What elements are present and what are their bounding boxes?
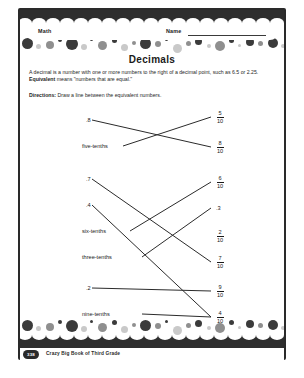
top-dot-band xyxy=(20,38,284,55)
worksheet-page: Math Name Decimals A decimal is a number… xyxy=(0,0,304,378)
fraction-numerator: 6 xyxy=(213,176,227,182)
bottom-decorative-band xyxy=(20,335,284,348)
decorative-dot xyxy=(90,320,93,323)
fraction-numerator: 4 xyxy=(213,311,227,317)
band-notch xyxy=(20,335,32,340)
match-line[interactable] xyxy=(142,208,211,257)
fraction-denominator: 10 xyxy=(213,184,227,190)
directions-label: Directions: xyxy=(29,92,56,98)
fraction-denominator: 10 xyxy=(213,149,227,155)
band-notch xyxy=(256,335,270,340)
decorative-dot xyxy=(81,326,87,332)
fraction-numerator: 7 xyxy=(213,256,227,262)
right-fraction[interactable]: 810 xyxy=(213,141,227,155)
right-fraction[interactable]: 910 xyxy=(213,285,227,299)
decorative-dot xyxy=(46,41,54,49)
decorative-dot xyxy=(46,323,54,331)
left-term[interactable]: .8 xyxy=(86,117,91,123)
decorative-dot xyxy=(173,326,182,335)
decorative-dot xyxy=(246,320,254,328)
right-fraction[interactable]: 510 xyxy=(213,111,227,125)
match-line[interactable] xyxy=(92,205,211,317)
decorative-dot xyxy=(132,41,136,45)
band-notch xyxy=(60,335,74,340)
band-notch xyxy=(130,335,144,340)
band-notch xyxy=(200,335,214,340)
directions-text: Directions: Draw a line between the equi… xyxy=(29,92,275,99)
match-line[interactable] xyxy=(92,120,211,147)
decorative-dot xyxy=(195,320,202,327)
decorative-dot xyxy=(81,44,87,50)
subject-label: Math xyxy=(38,28,51,34)
band-notch xyxy=(74,18,88,23)
book-title-footer: Crazy Big Book of Third Grade xyxy=(46,351,120,356)
match-line[interactable] xyxy=(130,182,211,231)
band-notch xyxy=(46,335,60,340)
match-line[interactable] xyxy=(92,288,211,291)
decorative-dot xyxy=(281,326,284,330)
decorative-dot xyxy=(215,323,225,333)
decorative-dot xyxy=(36,44,41,49)
right-fraction[interactable]: 610 xyxy=(213,176,227,190)
decorative-dot xyxy=(186,41,191,46)
right-term[interactable]: .3 xyxy=(216,205,221,211)
band-notch xyxy=(270,335,284,340)
band-notch xyxy=(158,18,172,23)
decorative-dot xyxy=(186,323,191,328)
matching-lines xyxy=(20,104,284,320)
decorative-dot xyxy=(238,44,241,47)
band-notch xyxy=(228,18,242,23)
name-write-line[interactable] xyxy=(188,35,266,36)
band-notch xyxy=(60,18,74,23)
band-notch xyxy=(186,18,200,23)
match-line[interactable] xyxy=(142,314,211,317)
decorative-dot xyxy=(121,326,128,333)
decorative-dot xyxy=(155,41,161,47)
band-notch xyxy=(172,18,186,23)
band-notch xyxy=(102,18,116,23)
fraction-denominator: 10 xyxy=(213,119,227,125)
band-notch xyxy=(102,335,116,340)
name-label: Name xyxy=(166,28,181,34)
left-term[interactable]: nine-tenths xyxy=(82,311,110,317)
definition-part-1: A decimal is a number with one or more n… xyxy=(29,69,258,75)
band-notch xyxy=(116,335,130,340)
decorative-dot xyxy=(140,320,151,331)
decorative-dot xyxy=(121,44,128,51)
band-notch xyxy=(116,18,130,23)
band-notch xyxy=(228,335,242,340)
left-term[interactable]: five-tenths xyxy=(82,143,108,149)
band-notch xyxy=(172,335,186,340)
decorative-dot xyxy=(258,41,263,46)
band-notch xyxy=(32,335,46,340)
decorative-dot xyxy=(66,320,78,332)
match-line[interactable] xyxy=(123,117,211,146)
left-term[interactable]: .2 xyxy=(86,285,91,291)
band-notch xyxy=(270,18,284,23)
decorative-dot xyxy=(238,326,241,329)
fraction-numerator: 5 xyxy=(213,111,227,117)
left-term[interactable]: .7 xyxy=(86,176,91,182)
band-notch xyxy=(214,335,228,340)
left-term[interactable]: six-tenths xyxy=(82,228,106,234)
decorative-dot xyxy=(229,320,234,325)
band-notch xyxy=(256,18,270,23)
band-notch xyxy=(74,335,88,340)
fraction-numerator: 9 xyxy=(213,285,227,291)
directions-body: Draw a line between the equivalent numbe… xyxy=(56,92,161,98)
decorative-dot xyxy=(207,326,211,330)
left-term[interactable]: three-tenths xyxy=(82,254,112,260)
fraction-denominator: 10 xyxy=(213,293,227,299)
decorative-dot xyxy=(281,44,284,48)
definition-keyword: Equivalent xyxy=(29,76,55,82)
decorative-dot xyxy=(165,320,168,323)
band-notch xyxy=(88,335,102,340)
definition-part-2: means "numbers that are equal." xyxy=(55,76,132,82)
decorative-dot xyxy=(207,44,211,48)
left-term[interactable]: .4 xyxy=(86,202,91,208)
band-notch xyxy=(186,335,200,340)
page-title: Decimals xyxy=(0,54,304,65)
right-fraction[interactable]: 210 xyxy=(213,230,227,244)
right-fraction[interactable]: 710 xyxy=(213,256,227,270)
decorative-dot xyxy=(22,320,33,331)
